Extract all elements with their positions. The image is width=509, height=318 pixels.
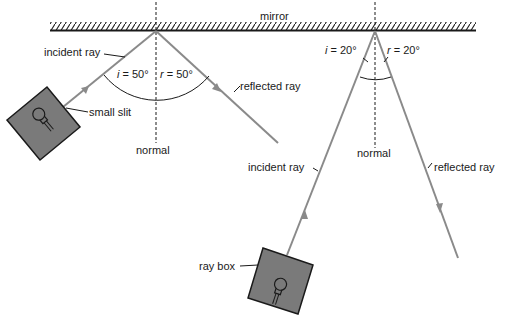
right-reflected-ray [375,31,458,258]
mirror-label: mirror [260,10,289,22]
left-incident-ray-label: incident ray [44,46,100,58]
right-reflected-ray-label: reflected ray [434,161,495,173]
left-incident-pointer [104,54,125,57]
right-angle-i-label: i = 20° [325,44,357,56]
mirror [50,22,476,31]
left-normal-label: normal [136,144,170,156]
right-normal-label: normal [357,147,391,159]
left-ray-box [7,87,80,160]
right-reflected-pointer [428,163,432,168]
left-angle-r-label: r = 50° [160,68,193,80]
ray-box-label: ray box [199,260,235,272]
slit-pointer [66,108,88,112]
right-incident-ray-label: incident ray [248,161,304,173]
right-ray-box [248,248,313,314]
ray-box-pointer [240,265,258,266]
reflection-diagram: mirror incident ray small slit reflected… [0,0,509,318]
right-incident-ray [287,31,375,255]
right-incident-pointer [313,168,318,171]
left-angle-i-label: i = 50° [117,68,149,80]
right-angle-r-label: r = 20° [387,44,420,56]
small-slit-label: small slit [89,106,131,118]
left-reflected-ray-label: reflected ray [240,80,301,92]
arrow-up-icon [81,86,89,94]
